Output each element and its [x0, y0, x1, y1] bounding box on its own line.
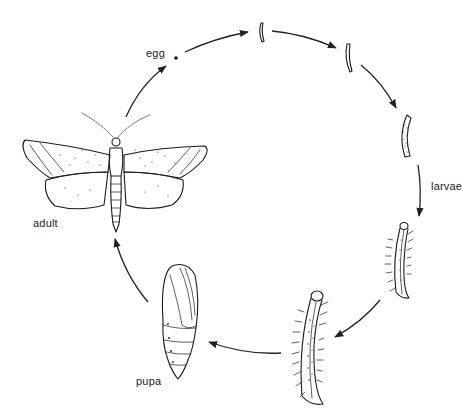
arrow-larva-3-to-larva-4: [418, 165, 420, 216]
larva-3-icon: [402, 115, 411, 157]
arrow-larva-4-to-larva-5: [335, 300, 380, 337]
pupa-icon: [162, 264, 197, 379]
cycle-arrows: [115, 31, 420, 353]
arrow-larva-5-to-pupa: [209, 342, 281, 353]
arrow-egg-to-larva-1: [185, 32, 248, 52]
larva-4-icon: [385, 223, 413, 299]
pupa-label: pupa: [136, 375, 161, 387]
adult-moth-icon: [23, 113, 207, 232]
larva-1-icon: [260, 23, 264, 42]
arrow-pupa-to-adult: [115, 239, 148, 302]
larvae-label: larvae: [431, 180, 462, 192]
egg-icon: [174, 56, 178, 60]
larva-5-icon: [292, 291, 328, 404]
arrow-larva-2-to-larva-3: [361, 65, 396, 108]
arrow-larva-1-to-larva-2: [272, 31, 336, 48]
egg-label: egg: [146, 47, 165, 59]
arrow-adult-to-egg: [126, 66, 166, 117]
larva-2-icon: [346, 44, 352, 72]
adult-label: adult: [33, 217, 58, 229]
